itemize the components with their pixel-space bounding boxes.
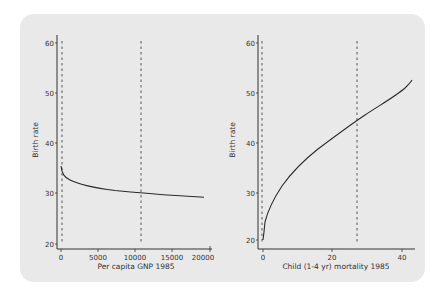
right-ytick-50: 50 — [246, 90, 255, 98]
right-ytick-60: 60 — [246, 40, 255, 48]
left-xtick-5000: 5000 — [89, 254, 107, 262]
left-chart: 60 50 40 30 20 0 5000 10000 15000 20000 … — [31, 35, 214, 271]
right-ytick-20: 20 — [246, 237, 255, 245]
left-xtick-0: 0 — [59, 254, 63, 262]
left-curve — [61, 166, 204, 197]
left-ytick-40: 40 — [45, 140, 54, 148]
right-ytick-40: 40 — [246, 140, 255, 148]
right-xtick-40: 40 — [398, 254, 407, 262]
right-xtick-0: 0 — [261, 254, 265, 262]
right-curve — [263, 80, 412, 240]
left-xtick-15000: 15000 — [161, 254, 183, 262]
right-ytick-30: 30 — [246, 190, 255, 198]
right-chart: 60 50 40 30 20 0 20 40 Child (1-4 yr) mo… — [228, 35, 415, 271]
right-xtick-20: 20 — [328, 254, 337, 262]
left-xtick-20000: 20000 — [192, 254, 214, 262]
left-xtick-10000: 10000 — [124, 254, 146, 262]
left-ytick-50: 50 — [45, 90, 54, 98]
left-x-axis-title: Per capita GNP 1985 — [97, 262, 174, 271]
right-x-axis-title: Child (1-4 yr) mortality 1985 — [282, 262, 389, 271]
left-ytick-20: 20 — [45, 241, 54, 249]
left-ytick-30: 30 — [45, 190, 54, 198]
left-y-axis-title: Birth rate — [31, 122, 40, 158]
right-y-axis-title: Birth rate — [228, 122, 237, 158]
left-ytick-60: 60 — [45, 40, 54, 48]
charts-svg: 60 50 40 30 20 0 5000 10000 15000 20000 … — [0, 0, 447, 297]
